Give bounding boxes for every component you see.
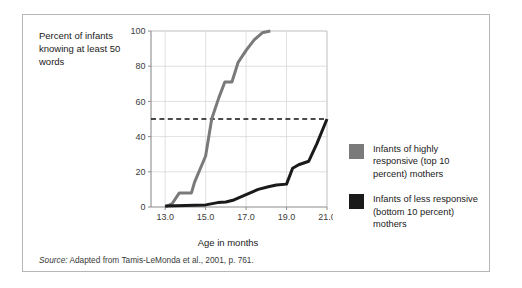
plot-area: 02040608010013.015.017.019.021.0 bbox=[123, 25, 333, 235]
svg-text:15.0: 15.0 bbox=[197, 212, 215, 222]
source-label: Source: bbox=[39, 255, 68, 265]
svg-text:13.0: 13.0 bbox=[156, 212, 174, 222]
legend-swatch-less-responsive bbox=[349, 194, 364, 209]
source-citation: Adapted from Tamis-LeMonda et al., 2001,… bbox=[68, 255, 254, 265]
figure-panel: Percent of infants knowing at least 50 w… bbox=[22, 14, 490, 272]
legend-item: Infants of less responsive (bottom 10 pe… bbox=[349, 193, 481, 230]
line-chart-svg: 02040608010013.015.017.019.021.0 bbox=[123, 25, 333, 235]
source-note: Source: Adapted from Tamis-LeMonda et al… bbox=[39, 255, 254, 265]
svg-text:0: 0 bbox=[140, 202, 145, 212]
svg-text:60: 60 bbox=[135, 97, 145, 107]
svg-text:20: 20 bbox=[135, 167, 145, 177]
svg-text:40: 40 bbox=[135, 132, 145, 142]
y-axis-caption: Percent of infants knowing at least 50 w… bbox=[39, 29, 127, 69]
svg-text:21.0: 21.0 bbox=[318, 212, 333, 222]
legend-label: Infants of highly responsive (top 10 per… bbox=[373, 143, 481, 180]
svg-text:19.0: 19.0 bbox=[278, 212, 296, 222]
svg-text:80: 80 bbox=[135, 61, 145, 71]
svg-text:100: 100 bbox=[130, 26, 145, 36]
x-axis-title: Age in months bbox=[123, 237, 333, 248]
legend-label: Infants of less responsive (bottom 10 pe… bbox=[373, 193, 481, 230]
svg-text:17.0: 17.0 bbox=[237, 212, 255, 222]
legend-swatch-highly-responsive bbox=[349, 144, 364, 159]
legend-item: Infants of highly responsive (top 10 per… bbox=[349, 143, 481, 180]
legend: Infants of highly responsive (top 10 per… bbox=[349, 143, 481, 243]
